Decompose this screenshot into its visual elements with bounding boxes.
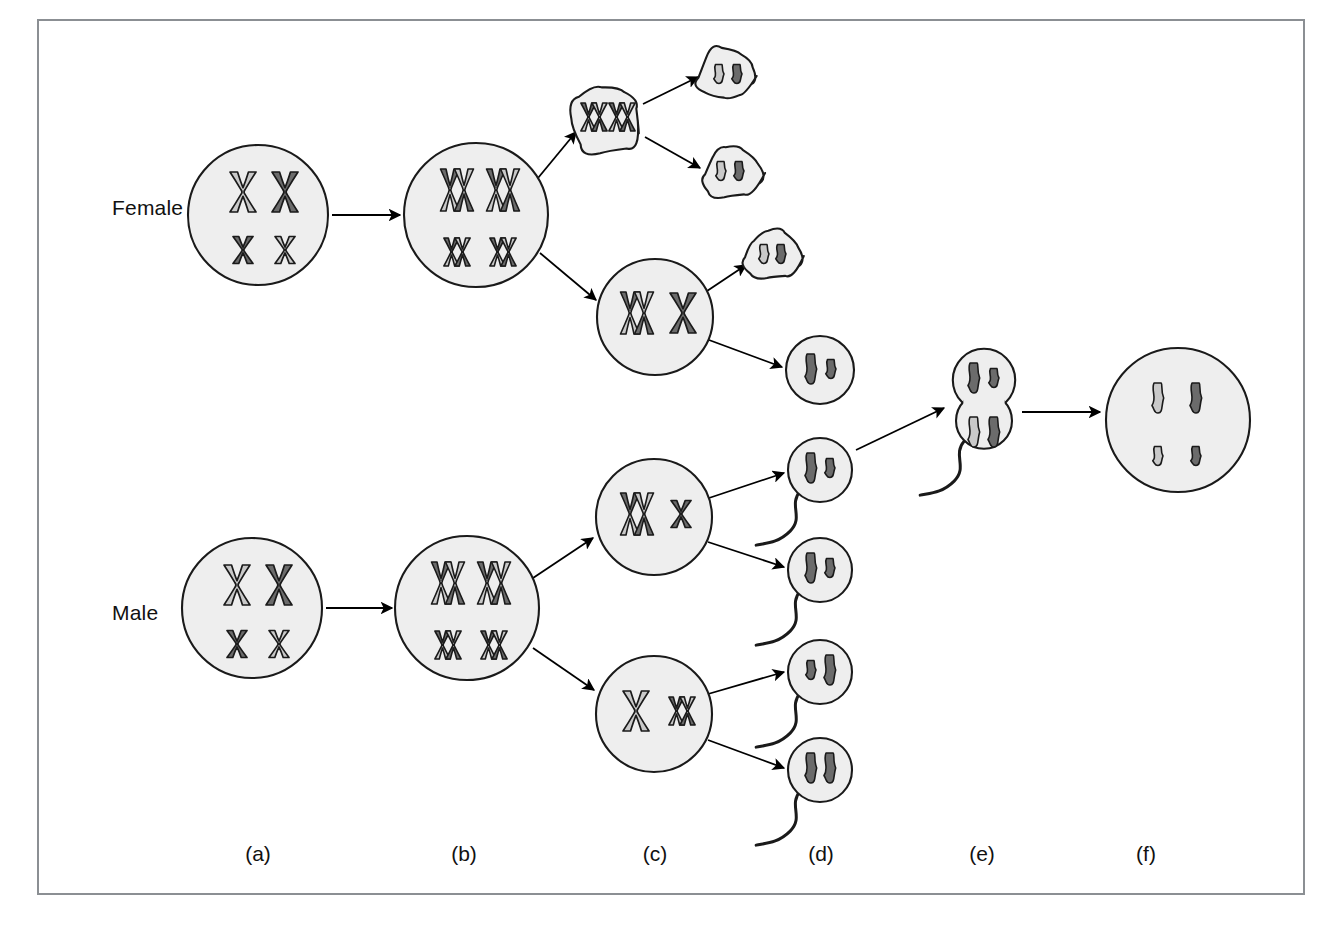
arrow-secondary-top-to-sperm-2 <box>708 542 784 567</box>
arrow-secondary-top-to-sperm-1 <box>709 473 784 498</box>
column-label-b: (b) <box>451 842 477 866</box>
secondary-spermatocyte-top <box>596 459 712 575</box>
polar-body-daughter-top <box>695 46 756 98</box>
sperm-2 <box>756 538 852 645</box>
female-duplicated-primary-oocyte <box>404 143 548 287</box>
polar-body-daughter-bottom <box>702 146 765 198</box>
arrow-ovum-to-fertilization <box>856 408 944 450</box>
arrow-polar-body-to-daughter-top <box>643 77 698 104</box>
ovum <box>786 336 854 404</box>
sperm-tail <box>756 491 800 545</box>
first-polar-body <box>570 87 639 155</box>
sperm-tail <box>756 591 800 645</box>
column-label-f: (f) <box>1136 842 1156 866</box>
sperm-tail <box>756 693 800 747</box>
arrow-female-b-to-secondary-oocyte <box>540 253 596 300</box>
sperm-tail <box>920 441 964 495</box>
sperm-4 <box>756 738 852 845</box>
arrow-male-b-to-secondary-top <box>533 538 593 578</box>
zygote <box>1106 348 1250 492</box>
male-primary-spermatocyte <box>182 538 322 678</box>
column-label-c: (c) <box>643 842 668 866</box>
male-duplicated-primary-spermatocyte <box>395 536 539 680</box>
figure-canvas: FemaleMale (a)(b)(c)(d)(e)(f) <box>0 0 1340 929</box>
cell-layer <box>182 46 1250 845</box>
secondary-spermatocyte-bottom <box>596 656 712 772</box>
female-primary-oocyte <box>188 145 328 285</box>
arrow-secondary-oocyte-to-second-polar-body <box>707 265 746 291</box>
arrow-polar-body-to-daughter-bottom <box>645 137 700 168</box>
gametogenesis-diagram <box>0 0 1340 929</box>
arrow-male-b-to-secondary-bottom <box>533 648 594 690</box>
row-label-male: Male <box>112 601 158 625</box>
secondary-oocyte <box>597 259 713 375</box>
column-label-e: (e) <box>969 842 995 866</box>
row-label-female: Female <box>112 196 183 220</box>
sperm-tail <box>756 791 800 845</box>
fertilized-egg <box>920 349 1015 495</box>
second-polar-body <box>743 229 804 279</box>
arrow-secondary-oocyte-to-ovum <box>709 340 782 367</box>
arrow-female-b-to-polar-body <box>538 132 576 178</box>
column-label-d: (d) <box>808 842 834 866</box>
column-label-a: (a) <box>245 842 271 866</box>
arrow-secondary-bottom-to-sperm-3 <box>708 672 784 694</box>
sperm-1 <box>756 438 852 545</box>
sperm-3 <box>756 640 852 747</box>
